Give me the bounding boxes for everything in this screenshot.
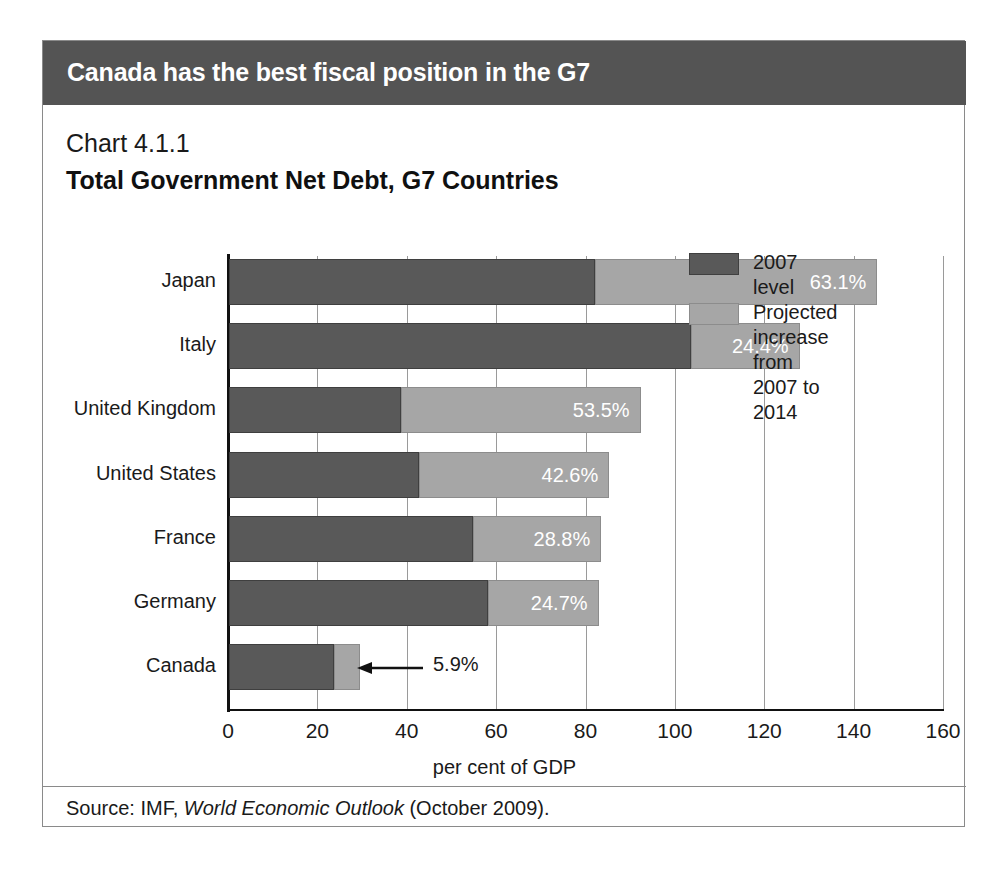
x-axis-title: per cent of GDP xyxy=(43,756,966,779)
category-label: United States xyxy=(0,462,216,485)
bar-segment-projected-increase: 28.8% xyxy=(473,516,602,562)
x-tick-label: 40 xyxy=(377,719,437,743)
bar-row: 24.7% xyxy=(229,580,599,626)
source-divider xyxy=(43,786,966,787)
category-label: Italy xyxy=(0,333,216,356)
bar-segment-projected-increase: 42.6% xyxy=(419,452,609,498)
category-label: Canada xyxy=(0,654,216,677)
bar-value-label: 42.6% xyxy=(542,463,599,486)
legend-swatch xyxy=(689,303,739,325)
plot-area: JapanItalyUnited KingdomUnited StatesFra… xyxy=(43,41,966,828)
bar-row: 42.6% xyxy=(229,452,609,498)
x-tick-label: 120 xyxy=(734,719,794,743)
bar-segment-2007-level xyxy=(229,323,691,369)
x-tick-label: 80 xyxy=(556,719,616,743)
left-arrow-icon xyxy=(355,660,425,676)
bar-row: 53.5% xyxy=(229,387,641,433)
bar-row xyxy=(229,644,360,690)
canada-callout-value: 5.9% xyxy=(433,653,479,676)
category-label: France xyxy=(0,526,216,549)
legend-label: 2007 level xyxy=(753,250,798,300)
bar-row: 24.4% xyxy=(229,323,800,369)
legend-label: Projected increase from 2007 to 2014 xyxy=(753,300,838,425)
x-axis-line xyxy=(228,709,944,711)
x-tick-label: 140 xyxy=(824,719,884,743)
category-label: United Kingdom xyxy=(0,397,216,420)
bar-segment-2007-level xyxy=(229,516,473,562)
bar-segment-projected-increase: 53.5% xyxy=(401,387,640,433)
bar-value-label: 24.7% xyxy=(531,592,588,615)
gridline xyxy=(854,256,855,711)
gridline xyxy=(943,256,944,711)
bar-segment-2007-level xyxy=(229,452,419,498)
bar-row: 28.8% xyxy=(229,516,601,562)
bar-segment-2007-level xyxy=(229,259,595,305)
bar-segment-2007-level xyxy=(229,387,401,433)
category-label: Germany xyxy=(0,590,216,613)
legend-swatch xyxy=(689,253,739,275)
x-tick-label: 20 xyxy=(287,719,347,743)
x-tick-label: 60 xyxy=(466,719,526,743)
x-tick-label: 160 xyxy=(913,719,973,743)
source-publication: World Economic Outlook xyxy=(184,797,404,819)
source-suffix: (October 2009). xyxy=(404,797,550,819)
bar-value-label: 53.5% xyxy=(573,399,630,422)
bar-segment-projected-increase: 24.7% xyxy=(488,580,598,626)
bar-value-label: 28.8% xyxy=(534,527,591,550)
x-tick-label: 100 xyxy=(645,719,705,743)
figure-panel: Canada has the best fiscal position in t… xyxy=(42,40,965,827)
category-label: Japan xyxy=(0,269,216,292)
source-line: Source: IMF, World Economic Outlook (Oct… xyxy=(66,797,550,820)
bar-segment-2007-level xyxy=(229,580,488,626)
bar-value-label: 63.1% xyxy=(810,271,867,294)
x-tick-label: 0 xyxy=(198,719,258,743)
source-prefix: Source: IMF, xyxy=(66,797,184,819)
bar-segment-2007-level xyxy=(229,644,334,690)
